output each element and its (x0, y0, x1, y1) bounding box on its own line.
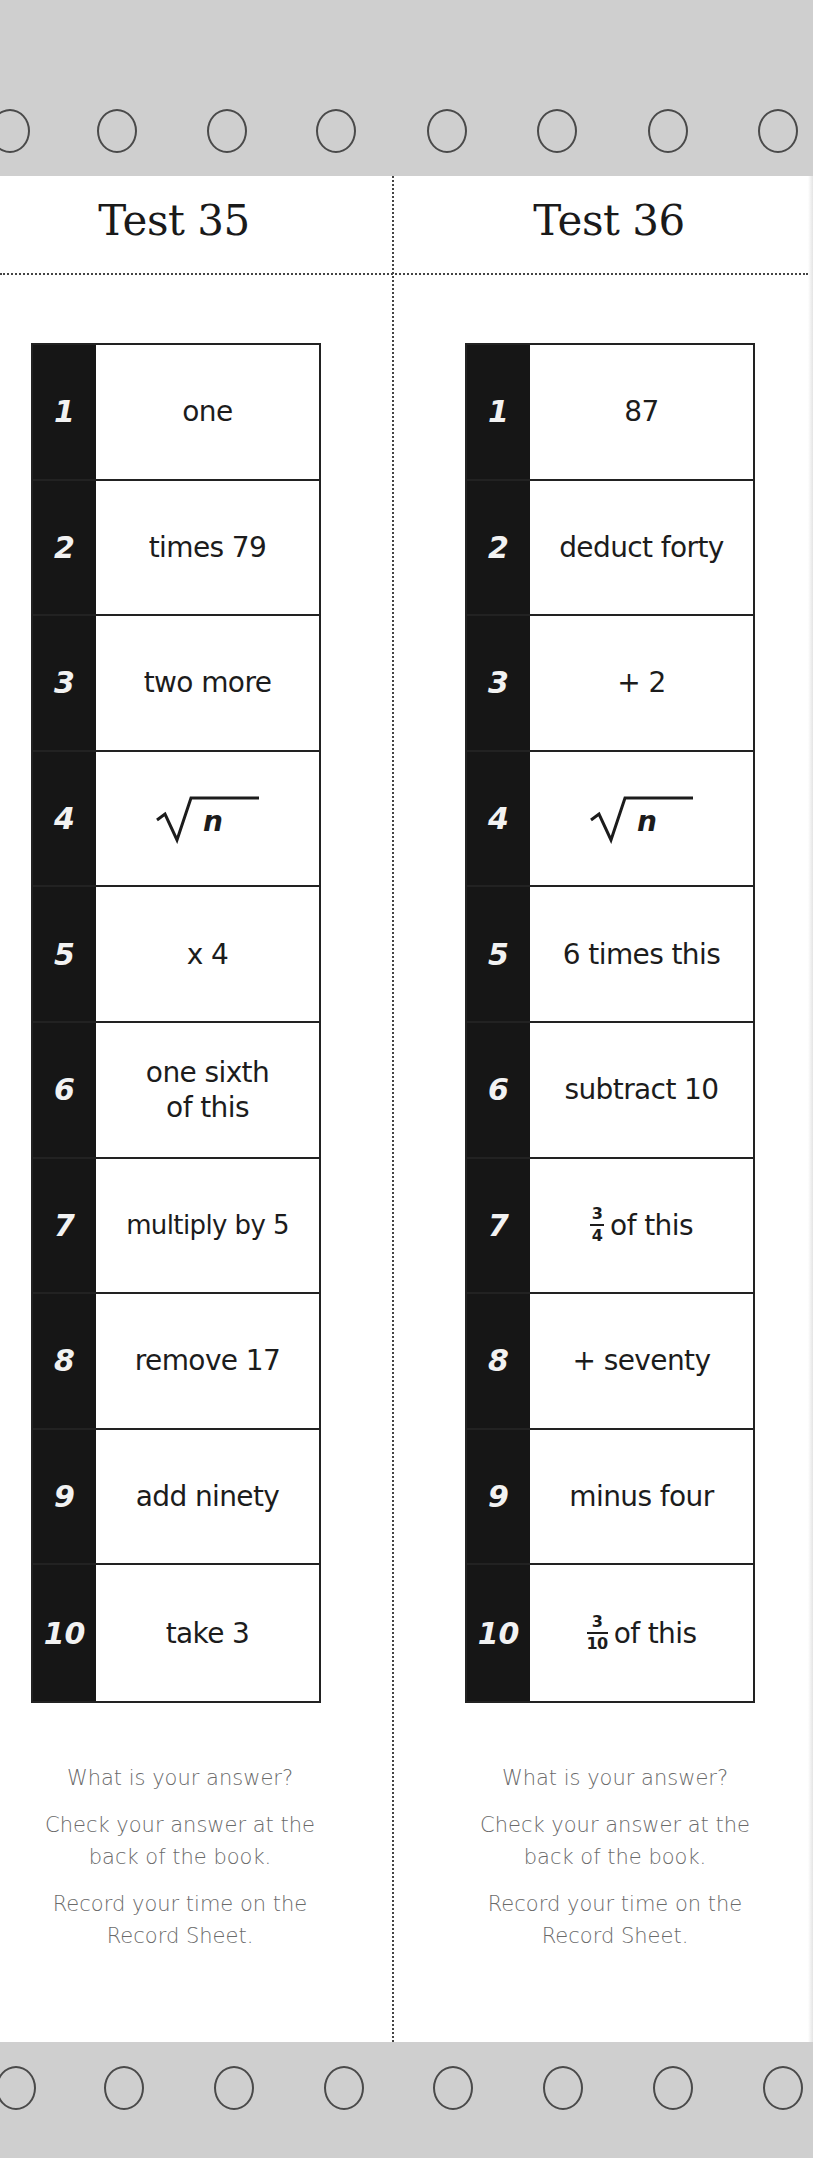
step-number: 6 (467, 1023, 530, 1157)
record-time-note: Record your time on the Record Sheet. (455, 1888, 775, 1952)
step-row: 1 87 (467, 345, 753, 481)
binder-hole-icon (758, 109, 798, 153)
step-number: 7 (33, 1159, 96, 1293)
step-instruction: + seventy (530, 1294, 753, 1428)
step-row: 6 one sixth of this (33, 1023, 319, 1159)
step-instruction: deduct forty (530, 481, 753, 615)
step-row: 4 n (467, 752, 753, 888)
step-number: 10 (33, 1565, 96, 1701)
step-number: 5 (467, 887, 530, 1021)
step-instruction: n (530, 752, 753, 886)
step-row: 10 3 10 of this (467, 1565, 753, 1701)
step-row: 7 multiply by 5 (33, 1159, 319, 1295)
step-row: 3 + 2 (467, 616, 753, 752)
radicand: n (203, 804, 222, 839)
test-36-steps-table: 1 87 2 deduct forty 3 + 2 4 n 5 6 times … (465, 343, 755, 1703)
fraction-numerator: 3 (592, 1206, 603, 1222)
binder-hole-icon (433, 2066, 473, 2110)
radicand: n (637, 804, 656, 839)
step-instruction: 3 10 of this (530, 1565, 753, 1701)
step-number: 8 (33, 1294, 96, 1428)
binder-hole-icon (648, 109, 688, 153)
binder-hole-icon (97, 109, 137, 153)
fraction: 3 10 (587, 1614, 608, 1652)
binder-hole-icon (537, 109, 577, 153)
binder-hole-icon (427, 109, 467, 153)
vertical-cut-line (392, 176, 394, 2042)
square-root-expression: n (155, 794, 260, 844)
step-instruction: minus four (530, 1430, 753, 1564)
step-number: 9 (33, 1430, 96, 1564)
instructions-right: What is your answer? Check your answer a… (455, 1762, 775, 1967)
step-row: 3 two more (33, 616, 319, 752)
binder-hole-icon (214, 2066, 254, 2110)
step-number: 1 (33, 345, 96, 479)
check-answer-note: Check your answer at the back of the boo… (20, 1809, 340, 1873)
step-instruction: take 3 (96, 1565, 319, 1701)
step-number: 4 (467, 752, 530, 886)
fraction: 3 4 (590, 1206, 604, 1244)
square-root-expression: n (589, 794, 694, 844)
fraction-denominator: 4 (592, 1228, 603, 1244)
step-number: 7 (467, 1159, 530, 1293)
binder-hole-icon (324, 2066, 364, 2110)
test-title-right: Test 36 (479, 196, 739, 245)
step-instruction: one sixth of this (96, 1023, 319, 1157)
horizontal-cut-line (0, 273, 808, 275)
step-number: 6 (33, 1023, 96, 1157)
step-instruction: 6 times this (530, 887, 753, 1021)
step-instruction: 3 4 of this (530, 1159, 753, 1293)
step-instruction: subtract 10 (530, 1023, 753, 1157)
binder-hole-icon (316, 109, 356, 153)
step-number: 1 (467, 345, 530, 479)
step-instruction: 87 (530, 345, 753, 479)
binder-hole-icon (0, 2066, 36, 2110)
page-edge-shadow (808, 176, 813, 2042)
binder-hole-icon (653, 2066, 693, 2110)
step-number: 3 (33, 616, 96, 750)
record-time-note: Record your time on the Record Sheet. (20, 1888, 340, 1952)
step-row: 8 + seventy (467, 1294, 753, 1430)
step-row: 5 6 times this (467, 887, 753, 1023)
step-row: 9 add ninety (33, 1430, 319, 1566)
test-35-steps-table: 1 one 2 times 79 3 two more 4 n 5 x 4 6 … (31, 343, 321, 1703)
step-instruction: two more (96, 616, 319, 750)
step-row: 2 times 79 (33, 481, 319, 617)
step-number: 4 (33, 752, 96, 886)
top-binder-strip (0, 0, 813, 176)
step-instruction-text: one sixth of this (146, 1055, 269, 1125)
step-row: 2 deduct forty (467, 481, 753, 617)
instructions-left: What is your answer? Check your answer a… (20, 1762, 340, 1967)
step-instruction: times 79 (96, 481, 319, 615)
step-instruction: remove 17 (96, 1294, 319, 1428)
step-instruction: n (96, 752, 319, 886)
step-instruction: x 4 (96, 887, 319, 1021)
step-number: 2 (33, 481, 96, 615)
step-row: 10 take 3 (33, 1565, 319, 1701)
bottom-binder-strip (0, 2042, 813, 2158)
step-row: 9 minus four (467, 1430, 753, 1566)
step-instruction: multiply by 5 (96, 1159, 319, 1293)
step-row: 5 x 4 (33, 887, 319, 1023)
binder-hole-icon (0, 109, 30, 153)
fraction-numerator: 3 (592, 1614, 603, 1630)
step-row: 8 remove 17 (33, 1294, 319, 1430)
binder-hole-icon (207, 109, 247, 153)
binder-hole-icon (763, 2066, 803, 2110)
test-title-left: Test 35 (44, 196, 304, 245)
step-number: 8 (467, 1294, 530, 1428)
step-number: 3 (467, 616, 530, 750)
step-instruction-text: of this (610, 1208, 693, 1243)
answer-prompt: What is your answer? (20, 1762, 340, 1794)
step-instruction: one (96, 345, 319, 479)
step-instruction: + 2 (530, 616, 753, 750)
step-number: 5 (33, 887, 96, 1021)
step-number: 9 (467, 1430, 530, 1564)
step-row: 6 subtract 10 (467, 1023, 753, 1159)
step-row: 4 n (33, 752, 319, 888)
step-row: 7 3 4 of this (467, 1159, 753, 1295)
fraction-denominator: 10 (587, 1636, 608, 1652)
check-answer-note: Check your answer at the back of the boo… (455, 1809, 775, 1873)
step-instruction: add ninety (96, 1430, 319, 1564)
binder-hole-icon (104, 2066, 144, 2110)
